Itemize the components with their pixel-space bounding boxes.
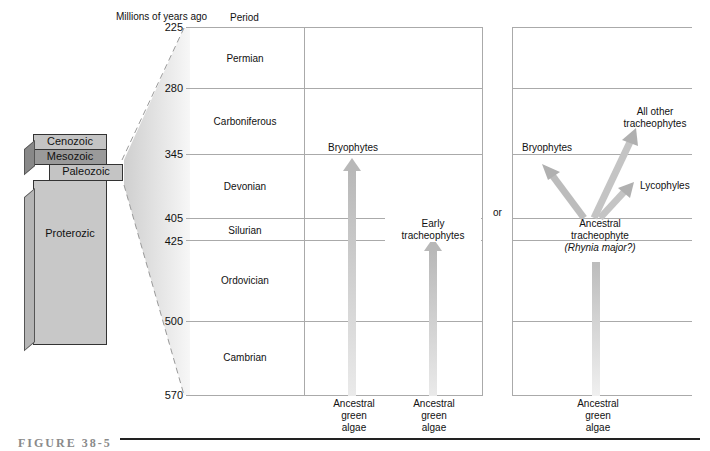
label-line: green [402,410,466,422]
label-line: algae [322,422,386,434]
era-label: Proterozic [45,227,95,239]
era-label: Paleozoic [62,165,110,177]
label-line: tracheophytes [615,118,695,130]
period-cambrian: Cambrian [186,352,304,364]
era-side-face [24,188,35,351]
right-arrows [512,120,702,400]
lycophyles-label: Lycophyles [640,180,690,192]
ancestral-tracheophyte-label: Ancestral tracheophyte (Rhynia major?) [556,218,644,254]
period-carboniferous: Carboniferous [186,116,304,128]
label-line: Early [385,218,481,230]
bryophytes-arrow-icon [343,158,361,396]
label-line: green [322,410,386,422]
left-arrows [300,150,490,400]
bryophytes-label: Bryophytes [310,142,396,154]
label-line: tracheophyte [556,230,644,242]
label-line: (Rhynia major?) [556,242,644,254]
period-silurian: Silurian [186,225,304,237]
boundary-225 [186,27,482,28]
period-permian: Permian [186,53,304,65]
period-devonian: Devonian [186,181,304,193]
ancestral-stem-arrow-icon [592,262,600,396]
tick-280: 280 [147,82,183,94]
era-mesozoic: Mesozoic [33,149,107,165]
or-separator: or [493,207,502,219]
label-line: green [566,410,630,422]
right-bryophytes-label: Bryophytes [522,142,572,154]
label-line: Ancestral [402,398,466,410]
boundary-280-r [512,88,692,89]
tick-345: 345 [147,148,183,160]
label-line: tracheophytes [385,230,481,242]
era-side-face [24,140,35,175]
tick-225: 225 [147,21,183,33]
label-line: Ancestral [556,218,644,230]
boundary-280 [186,88,482,89]
era-paleozoic: Paleozoic [49,164,123,181]
label-line: algae [566,422,630,434]
bryophytes-branch-arrow-icon [542,164,584,218]
caption-rule [120,438,700,440]
label-line: Ancestral [566,398,630,410]
right-base-label: Ancestral green algae [566,398,630,434]
label-line: All other [615,106,695,118]
label-line: Ancestral [322,398,386,410]
era-label: Mesozoic [47,150,93,162]
tick-570: 570 [147,389,183,401]
base-label-2: Ancestral green algae [402,398,466,434]
tick-425: 425 [147,235,183,247]
base-label-1: Ancestral green algae [322,398,386,434]
early-tracheophytes-arrow-icon [424,238,442,396]
era-cenozoic: Cenozoic [33,134,107,150]
period-title: Period [230,12,259,24]
boundary-225-r [512,27,692,28]
all-other-tracheophytes-label: All other tracheophytes [615,106,695,130]
figure-caption: FIGURE 38-5 [18,436,112,451]
period-ordovician: Ordovician [186,275,304,287]
tick-500: 500 [147,315,183,327]
label-line: algae [402,422,466,434]
era-label: Cenozoic [47,135,93,147]
tick-405: 405 [147,212,183,224]
early-tracheophytes-label: Early tracheophytes [385,218,481,242]
era-proterozic: Proterozic [33,180,107,345]
